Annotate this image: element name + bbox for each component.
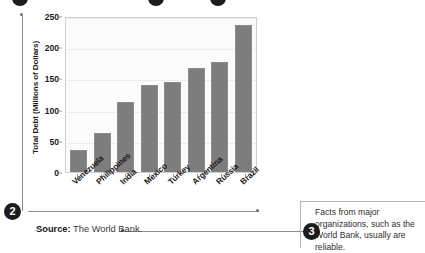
y-tick-mark-100 <box>59 110 62 111</box>
y-tick-label-50: 50 <box>49 137 59 147</box>
y-tick-mark-150 <box>59 79 62 80</box>
source-label: Source: <box>36 224 71 234</box>
leader-line-horizontal-callout-3 <box>124 231 313 232</box>
y-tick-mark-200 <box>59 48 62 49</box>
bar-chart: Total Debt (Millions of Dollars) 0501001… <box>28 6 283 206</box>
y-axis-ticks: 050100150200250 <box>28 6 62 162</box>
annotation-marker-3: 3 <box>303 223 320 240</box>
leader-line-vertical <box>22 14 23 211</box>
y-tick-mark-0 <box>59 173 62 174</box>
y-tick-mark-50 <box>59 141 62 142</box>
annotation-marker-partial-top-left <box>12 0 28 6</box>
callout-box-3: Facts from major organizations, such as … <box>300 201 425 248</box>
bar-brazil <box>235 25 252 172</box>
y-tick-label-150: 150 <box>45 74 59 84</box>
plot-area <box>65 17 257 173</box>
bar-argentina <box>188 68 205 172</box>
y-tick-label-250: 250 <box>45 12 59 22</box>
bar-mexico <box>141 85 158 172</box>
source-line: Source: The World Bank. <box>36 224 142 234</box>
callout-text-3: Facts from major organizations, such as … <box>315 207 421 253</box>
bar-turkey <box>164 82 181 172</box>
annotation-marker-2: 2 <box>4 203 21 220</box>
plot-wrapper <box>65 17 257 173</box>
y-tick-label-200: 200 <box>45 43 59 53</box>
y-tick-mark-250 <box>59 17 62 18</box>
bars-group <box>67 18 255 172</box>
x-axis-labels: VenezuelaPhilippinesIndiaMexicoTurkeyArg… <box>65 174 257 224</box>
source-value: The World Bank. <box>73 224 142 234</box>
y-tick-label-100: 100 <box>45 106 59 116</box>
